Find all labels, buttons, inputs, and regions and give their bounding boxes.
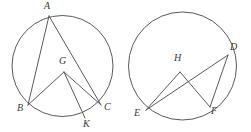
vertex-label-H: H xyxy=(174,53,181,63)
vertex-label-B: B xyxy=(17,103,23,113)
vertex-label-G: G xyxy=(59,56,66,66)
vertex-label-F: F xyxy=(211,106,217,116)
segment-AC xyxy=(49,16,101,105)
vertex-label-A: A xyxy=(44,1,50,11)
left-circle-outline xyxy=(12,16,113,117)
segment-GB xyxy=(28,72,64,105)
geometry-figure: A B C G K D E F H xyxy=(0,0,251,132)
vertex-label-D: D xyxy=(230,42,237,52)
vertex-label-K: K xyxy=(83,119,90,129)
segment-GK xyxy=(64,72,85,118)
segment-GC xyxy=(64,72,101,105)
vertex-label-C: C xyxy=(104,102,111,112)
segment-ED xyxy=(146,55,228,110)
segment-AB xyxy=(28,16,49,105)
right-circle-outline xyxy=(129,12,237,120)
vertex-label-E: E xyxy=(134,108,140,118)
